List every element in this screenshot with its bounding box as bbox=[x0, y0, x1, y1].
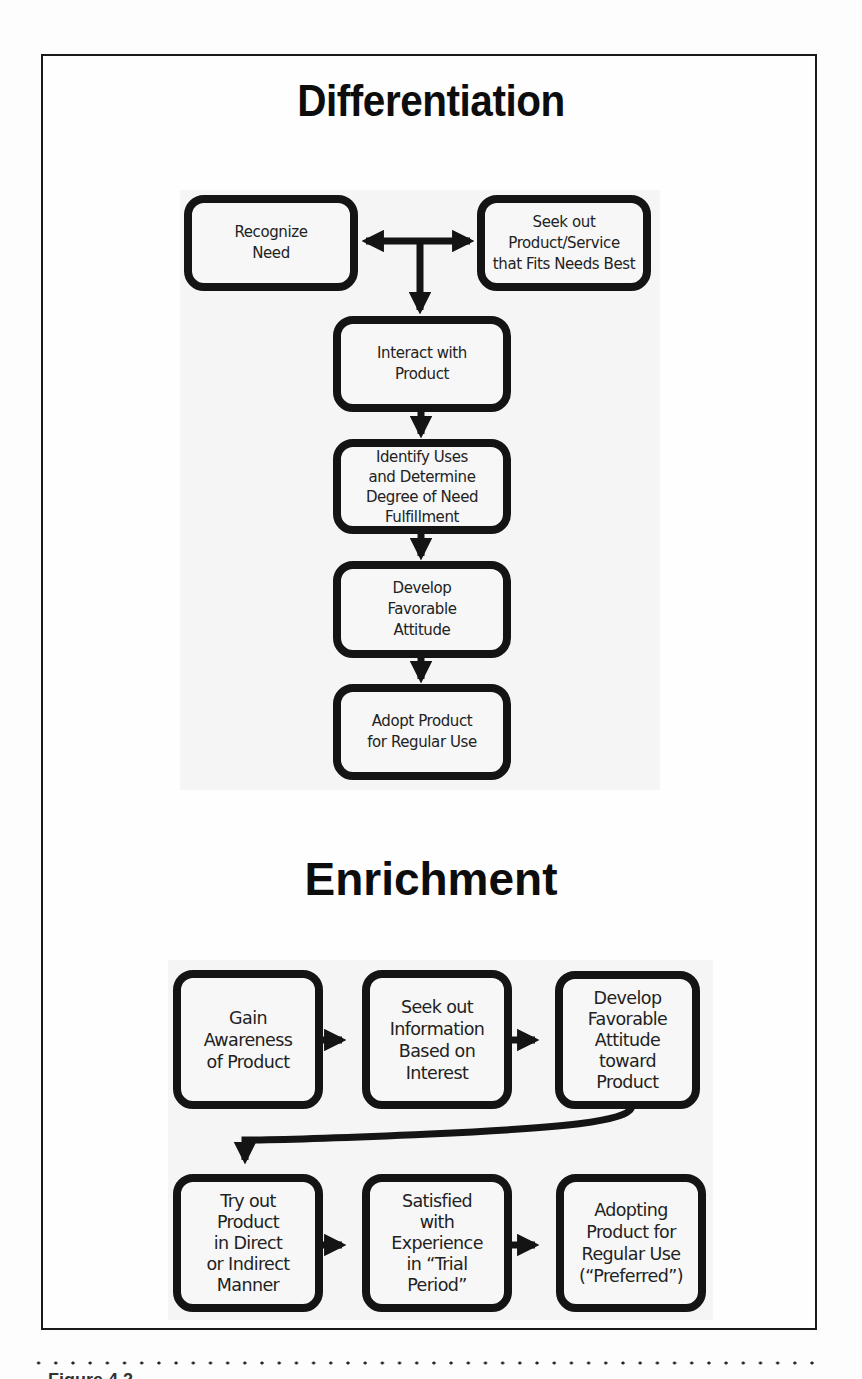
curved-arrow-develop-to-try bbox=[245, 1106, 632, 1160]
dotted-separator bbox=[30, 1361, 820, 1365]
connector-arrows bbox=[0, 0, 862, 1379]
figure-caption: Figure 4.2 bbox=[48, 1370, 133, 1379]
